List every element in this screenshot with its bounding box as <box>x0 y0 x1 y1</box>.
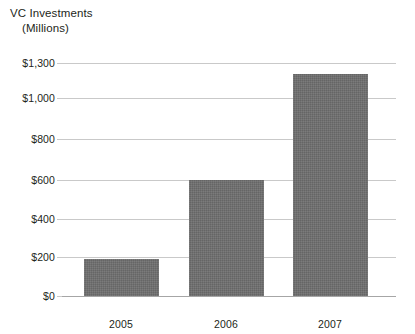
page-title: VC Investments <box>10 6 93 21</box>
y-axis-tick-label: $0 <box>43 290 55 302</box>
bar-2005 <box>84 259 159 296</box>
bar-2007 <box>293 74 368 296</box>
y-axis-tick-mark <box>57 219 62 220</box>
bar-2006 <box>189 180 264 296</box>
y-axis-tick-label: $1,000 <box>22 92 55 104</box>
y-axis-tick-label: $400 <box>31 213 55 225</box>
chart-subtitle: (Millions) <box>22 21 93 36</box>
vc-investments-bar-chart: VC Investments (Millions) $0$200$400$600… <box>0 0 415 334</box>
gridline <box>62 63 396 64</box>
x-axis-tick-label-2007: 2007 <box>318 318 342 330</box>
y-axis-tick-mark <box>57 98 62 99</box>
y-axis-tick-mark <box>57 180 62 181</box>
y-axis-tick-label: $800 <box>31 133 55 145</box>
y-axis-tick-mark <box>57 63 62 64</box>
chart-title-block: VC Investments (Millions) <box>10 6 93 36</box>
x-axis-tick-label-2006: 2006 <box>214 318 238 330</box>
y-axis-tick-mark <box>57 296 62 297</box>
y-axis-tick-mark <box>57 257 62 258</box>
y-axis-tick-mark <box>57 139 62 140</box>
plot-area: $0$200$400$600$800$1,000$1,3002005200620… <box>62 55 396 305</box>
y-axis-tick-label: $200 <box>31 251 55 263</box>
y-axis-tick-label: $600 <box>31 174 55 186</box>
x-axis-line <box>62 296 396 297</box>
x-axis-tick-label-2005: 2005 <box>109 318 133 330</box>
y-axis-tick-label: $1,300 <box>22 57 55 69</box>
